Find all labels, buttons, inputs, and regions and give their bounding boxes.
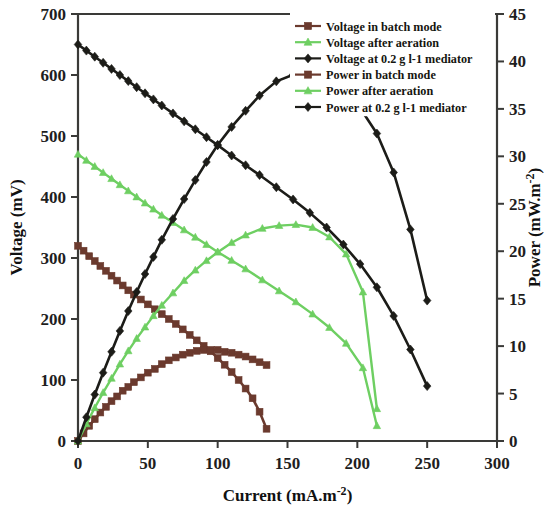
data-point-marker (172, 354, 179, 361)
polarization-power-curve-chart: 0501001502002503000100200300400500600700… (0, 0, 555, 510)
series-1 (74, 150, 380, 428)
x-tick-label: 100 (205, 454, 231, 473)
y-left-tick-label: 400 (41, 188, 67, 207)
y-left-tick-label: 500 (41, 127, 67, 146)
data-point-marker (263, 425, 270, 432)
data-point-marker (74, 150, 81, 157)
legend-label: Power after aeration (326, 84, 433, 98)
data-point-marker (186, 349, 193, 356)
data-point-marker (151, 365, 158, 372)
data-point-marker (130, 379, 137, 386)
y-axis-left-title: Voltage (mV) (7, 179, 26, 275)
data-point-marker (263, 362, 270, 369)
data-point-marker (172, 320, 179, 327)
data-point-marker (193, 337, 200, 344)
y-axis-right-title: Power (mW.m-2) (523, 168, 544, 288)
data-point-marker (256, 359, 263, 366)
y-right-tick-label: 0 (509, 432, 518, 451)
data-point-marker (256, 408, 263, 415)
data-point-marker (158, 311, 165, 318)
data-point-marker (186, 331, 193, 338)
y-right-tick-label: 40 (509, 52, 526, 71)
data-point-marker (235, 351, 242, 358)
y-right-tick-label: 35 (509, 100, 526, 119)
data-point-marker (214, 355, 221, 362)
data-point-marker (165, 316, 172, 323)
y-right-tick-label: 5 (509, 385, 518, 404)
y-left-tick-label: 200 (41, 310, 67, 329)
data-point-marker (221, 361, 228, 368)
data-point-marker (249, 356, 256, 363)
y-left-tick-label: 0 (58, 432, 67, 451)
y-right-tick-label: 45 (509, 5, 526, 24)
x-tick-label: 200 (345, 454, 371, 473)
data-point-marker (423, 296, 431, 305)
x-tick-label: 300 (484, 454, 510, 473)
data-point-marker (242, 385, 249, 392)
x-tick-label: 0 (74, 454, 83, 473)
data-point-marker (137, 374, 144, 381)
data-point-marker (373, 405, 380, 412)
plot-area: 0501001502002503000100200300400500600700… (7, 5, 544, 505)
y-left-tick-label: 100 (41, 371, 67, 390)
data-point-marker (359, 288, 366, 295)
data-point-marker (228, 349, 235, 356)
y-left-tick-label: 300 (41, 249, 67, 268)
legend-label: Power in batch mode (326, 68, 436, 82)
y-left-tick-label: 600 (41, 66, 67, 85)
legend-label: Voltage in batch mode (326, 20, 442, 34)
data-point-marker (193, 347, 200, 354)
y-left-tick-label: 700 (41, 5, 67, 24)
data-point-marker (207, 347, 214, 354)
data-point-marker (235, 377, 242, 384)
data-point-marker (91, 390, 99, 399)
chart-legend: Voltage in batch modeVoltage after aerat… (290, 13, 495, 116)
x-tick-label: 50 (139, 454, 156, 473)
x-tick-label: 250 (414, 454, 440, 473)
data-point-marker (242, 353, 249, 360)
y-right-tick-label: 25 (509, 195, 526, 214)
y-right-tick-label: 30 (509, 147, 526, 166)
x-axis-title: Current (mA.m-2) (223, 484, 353, 505)
data-point-marker (144, 301, 151, 308)
data-point-marker (165, 357, 172, 364)
data-point-marker (144, 369, 151, 376)
series-line (78, 154, 377, 425)
data-point-marker (179, 326, 186, 333)
data-point-marker (137, 296, 144, 303)
data-point-marker (179, 351, 186, 358)
data-point-marker (304, 71, 311, 78)
data-point-marker (214, 347, 221, 354)
x-tick-label: 150 (275, 454, 301, 473)
data-point-marker (221, 348, 228, 355)
legend-label: Power at 0.2 g l-1 mediator (326, 101, 467, 115)
data-point-marker (373, 422, 380, 429)
data-point-marker (91, 416, 98, 423)
data-point-marker (228, 369, 235, 376)
chart-figure: 0501001502002503000100200300400500600700… (0, 0, 555, 510)
data-point-marker (200, 347, 207, 354)
data-point-marker (304, 22, 311, 29)
y-right-tick-label: 10 (509, 337, 526, 356)
legend-label: Voltage after aeration (326, 36, 439, 50)
data-point-marker (158, 361, 165, 368)
data-point-marker (407, 225, 415, 234)
data-point-marker (249, 395, 256, 402)
legend-label: Voltage at 0.2 g l-1 mediator (326, 52, 473, 66)
y-right-tick-label: 20 (509, 242, 526, 261)
y-right-tick-label: 15 (509, 290, 526, 309)
